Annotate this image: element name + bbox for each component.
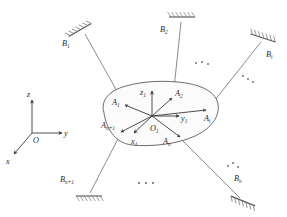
- hatch-B2: [168, 12, 196, 17]
- figure-root: · · ·· · ··· ·· · ····· Parallel manipul…: [0, 0, 287, 217]
- hatch-B1: [65, 19, 91, 37]
- global-x-label: x: [5, 157, 10, 166]
- manipulator-diagram: Parallel manipulator with n+1 legs conne…: [0, 0, 287, 217]
- leg-An1-Bn1: [90, 133, 121, 193]
- anchor-Bn-label: Bn: [234, 174, 242, 184]
- ground-support-B1: [65, 19, 91, 37]
- global-origin-label: O: [33, 136, 39, 145]
- ellipsis-right: · · ·: [242, 75, 254, 83]
- global-frame: z y x O: [5, 90, 68, 166]
- ellipsis-upper-right: · · ·: [195, 61, 209, 65]
- anchor-B2-label: B2: [160, 25, 168, 35]
- ellipsis-lower-right: · · ·: [227, 162, 239, 168]
- leg-An-Bn: [180, 138, 240, 198]
- ground-support-Bn1: [76, 196, 104, 201]
- ellipsis-bottom: · · ·: [138, 182, 154, 184]
- hatch-Bn1: [76, 196, 104, 201]
- anchor-Bi-label: Bi: [266, 50, 273, 60]
- global-y-label: y: [63, 129, 68, 138]
- ground-support-Bn: [229, 196, 256, 211]
- anchor-Bn1-label: Bn+1: [60, 175, 74, 185]
- ground-support-B2: [168, 12, 196, 17]
- anchor-B1-label: B1: [62, 39, 70, 49]
- hatch-Bn: [229, 196, 256, 211]
- ground-support-Bi: [249, 29, 277, 42]
- platform-outline: [103, 81, 218, 145]
- global-x-axis: [14, 133, 32, 154]
- moving-platform: [103, 81, 218, 145]
- global-z-label: z: [26, 90, 31, 99]
